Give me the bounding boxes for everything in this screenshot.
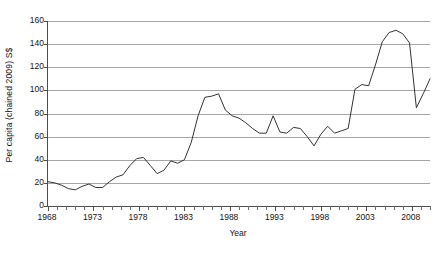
y-tick-label: 40 xyxy=(20,155,44,164)
x-tick-label: 1983 xyxy=(163,212,203,222)
x-tick-mark xyxy=(357,206,358,210)
x-tick-mark xyxy=(348,206,349,210)
x-tick-mark xyxy=(230,206,231,211)
x-tick-mark xyxy=(93,206,94,211)
y-tick-label: 60 xyxy=(20,132,44,141)
x-tick-mark xyxy=(303,206,304,210)
x-tick-mark xyxy=(166,206,167,210)
x-tick-mark xyxy=(212,206,213,210)
x-tick-mark xyxy=(84,206,85,210)
y-tick-mark xyxy=(44,44,48,45)
x-tick-label: 1988 xyxy=(209,212,249,222)
x-tick-label: 1998 xyxy=(300,212,340,222)
x-tick-mark xyxy=(321,206,322,211)
y-tick-label: 20 xyxy=(20,178,44,187)
x-axis-tick-labels: 196819731978198319881993199820032008 xyxy=(0,212,448,226)
x-tick-mark xyxy=(385,206,386,210)
x-axis-title-text: Year xyxy=(229,228,246,238)
y-axis-title: Per capita (chained 2009) S$ xyxy=(0,0,18,210)
x-tick-mark xyxy=(75,206,76,210)
x-tick-mark xyxy=(184,206,185,211)
y-axis-title-text: Per capita (chained 2009) S$ xyxy=(4,48,14,163)
x-tick-mark xyxy=(103,206,104,210)
y-tick-mark xyxy=(44,21,48,22)
x-tick-label: 1978 xyxy=(118,212,158,222)
x-tick-mark xyxy=(48,206,49,211)
y-tick-mark xyxy=(44,160,48,161)
y-tick-mark xyxy=(44,67,48,68)
x-tick-mark xyxy=(330,206,331,210)
x-tick-mark xyxy=(375,206,376,210)
x-tick-mark xyxy=(275,206,276,211)
series-polyline xyxy=(48,30,430,190)
x-tick-mark xyxy=(312,206,313,210)
x-tick-mark xyxy=(266,206,267,210)
x-tick-mark xyxy=(403,206,404,210)
y-tick-mark xyxy=(44,90,48,91)
y-tick-label: 160 xyxy=(20,16,44,25)
y-tick-label: 120 xyxy=(20,62,44,71)
x-tick-mark xyxy=(66,206,67,210)
x-tick-mark xyxy=(175,206,176,210)
x-tick-mark xyxy=(257,206,258,210)
line-chart: Per capita (chained 2009) S$ 02040608010… xyxy=(0,0,448,256)
x-tick-mark xyxy=(394,206,395,210)
x-tick-mark xyxy=(157,206,158,210)
x-tick-mark xyxy=(130,206,131,210)
x-tick-mark xyxy=(139,206,140,211)
y-tick-label: 140 xyxy=(20,39,44,48)
y-tick-mark xyxy=(44,114,48,115)
x-tick-mark xyxy=(339,206,340,210)
x-tick-mark xyxy=(284,206,285,210)
y-tick-mark xyxy=(44,183,48,184)
y-tick-label: 0 xyxy=(20,201,44,210)
x-tick-mark xyxy=(421,206,422,210)
series-line xyxy=(48,21,430,206)
x-tick-mark xyxy=(221,206,222,210)
x-axis-title: Year xyxy=(47,228,429,238)
x-tick-mark xyxy=(366,206,367,211)
y-tick-label: 100 xyxy=(20,85,44,94)
x-tick-mark xyxy=(412,206,413,211)
x-tick-mark xyxy=(148,206,149,210)
y-tick-mark xyxy=(44,137,48,138)
y-tick-label: 80 xyxy=(20,109,44,118)
x-tick-mark xyxy=(430,206,431,210)
x-tick-mark xyxy=(203,206,204,210)
x-tick-label: 1968 xyxy=(27,212,67,222)
plot-area xyxy=(47,21,430,207)
x-tick-label: 1973 xyxy=(72,212,112,222)
x-tick-label: 2003 xyxy=(345,212,385,222)
x-tick-mark xyxy=(248,206,249,210)
x-tick-label: 2008 xyxy=(391,212,431,222)
x-tick-mark xyxy=(121,206,122,210)
x-tick-mark xyxy=(194,206,195,210)
x-tick-mark xyxy=(57,206,58,210)
x-tick-mark xyxy=(112,206,113,210)
x-tick-mark xyxy=(239,206,240,210)
x-tick-label: 1993 xyxy=(254,212,294,222)
x-tick-mark xyxy=(294,206,295,210)
